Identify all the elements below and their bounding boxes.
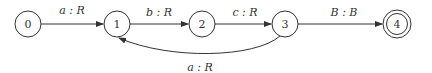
edge-1-2: b : R xyxy=(130,6,188,24)
state-1-label: 1 xyxy=(114,18,121,31)
edge-3-4-label: B : B xyxy=(330,6,358,19)
edge-3-1-label: a : R xyxy=(187,61,213,73)
state-diagram: 0 1 2 3 4 a : R b : R c : R B : B a : R xyxy=(0,0,432,73)
edge-1-2-label: b : R xyxy=(146,6,172,19)
state-3: 3 xyxy=(272,11,298,37)
edge-0-1-label: a : R xyxy=(59,4,85,17)
state-2-label: 2 xyxy=(199,18,206,31)
state-3-label: 3 xyxy=(282,18,289,31)
state-4-accepting: 4 xyxy=(383,10,411,38)
edge-2-3-label: c : R xyxy=(232,6,257,19)
state-0: 0 xyxy=(15,11,41,37)
edge-3-1-loopback: a : R xyxy=(119,36,280,73)
edge-3-4: B : B xyxy=(298,6,382,24)
edge-0-1: a : R xyxy=(41,4,103,24)
state-0-label: 0 xyxy=(25,18,32,31)
edge-2-3: c : R xyxy=(215,6,271,24)
state-2: 2 xyxy=(189,11,215,37)
state-4-label: 4 xyxy=(394,18,401,31)
state-1: 1 xyxy=(104,11,130,37)
